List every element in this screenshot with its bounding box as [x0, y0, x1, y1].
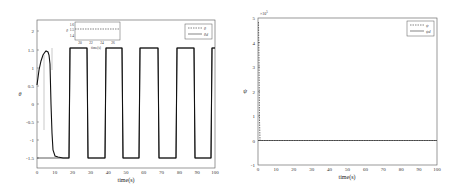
- svg-text:60: 60: [363, 167, 369, 172]
- svg-text:0: 0: [257, 167, 260, 172]
- svg-text:50: 50: [124, 170, 130, 175]
- svg-text:θ: θ: [66, 29, 68, 33]
- svg-text:20: 20: [70, 170, 76, 175]
- svg-text:1.4: 1.4: [70, 34, 75, 38]
- left-chart: 2 1.5 1 0.5 0 -0.5 -1 -1.5 0 10 20 30 40…: [19, 20, 220, 184]
- svg-text:0.5: 0.5: [28, 84, 35, 89]
- svg-text:50: 50: [345, 167, 351, 172]
- svg-text:4: 4: [253, 41, 256, 46]
- svg-text:5: 5: [253, 16, 256, 21]
- svg-text:1.5: 1.5: [28, 48, 35, 53]
- svg-text:0: 0: [36, 170, 39, 175]
- svg-text:20: 20: [78, 41, 82, 45]
- right-y-label: ψ: [243, 88, 247, 94]
- svg-text:2: 2: [32, 29, 35, 34]
- right-chart: 5 4 3 2 1 0 -1 ×105 0 10 20 30 40 50 60 …: [243, 10, 441, 181]
- svg-text:1: 1: [32, 66, 35, 71]
- svg-text:30: 30: [309, 167, 315, 172]
- right-legend: ψ ψd: [407, 21, 434, 36]
- svg-text:-1: -1: [30, 138, 35, 143]
- right-multiplier: ×105: [260, 10, 268, 16]
- left-y-label: θ: [19, 91, 22, 97]
- left-x-tick-labels: 0 10 20 30 40 50 60 70 80 90 100: [36, 170, 220, 175]
- svg-text:1: 1: [253, 114, 256, 119]
- svg-text:90: 90: [195, 170, 201, 175]
- svg-text:2: 2: [253, 90, 256, 95]
- svg-text:90: 90: [417, 167, 423, 172]
- left-legend: θ θd: [185, 24, 212, 39]
- svg-text:θ: θ: [204, 26, 206, 31]
- svg-text:1.6: 1.6: [70, 23, 75, 27]
- svg-text:26: 26: [111, 41, 115, 45]
- svg-text:70: 70: [159, 170, 165, 175]
- svg-text:-1: -1: [251, 163, 256, 168]
- svg-text:0: 0: [32, 102, 35, 107]
- svg-text:-0.5: -0.5: [26, 120, 34, 125]
- svg-text:70: 70: [381, 167, 387, 172]
- svg-text:0: 0: [253, 139, 256, 144]
- right-x-label: time(s): [339, 174, 356, 181]
- svg-text:40: 40: [327, 167, 333, 172]
- svg-text:100: 100: [433, 167, 441, 172]
- svg-text:100: 100: [211, 170, 219, 175]
- right-axes-box: [258, 18, 437, 165]
- left-x-label: time(s): [118, 177, 135, 184]
- svg-text:40: 40: [106, 170, 112, 175]
- svg-text:80: 80: [399, 167, 405, 172]
- svg-text:60: 60: [141, 170, 147, 175]
- svg-text:time(s): time(s): [91, 46, 102, 50]
- right-y-tick-labels: 5 4 3 2 1 0 -1: [251, 16, 256, 168]
- svg-text:-1.5: -1.5: [26, 156, 34, 161]
- svg-text:80: 80: [177, 170, 183, 175]
- svg-text:3: 3: [253, 65, 256, 70]
- left-y-tick-labels: 2 1.5 1 0.5 0 -0.5 -1 -1.5: [26, 29, 34, 161]
- left-axes-box: [37, 20, 215, 168]
- svg-text:10: 10: [52, 170, 58, 175]
- figure: 2 1.5 1 0.5 0 -0.5 -1 -1.5 0 10 20 30 40…: [0, 0, 457, 188]
- svg-text:22: 22: [89, 41, 93, 45]
- right-x-tick-labels: 0 10 20 30 40 50 60 70 80 90 100: [257, 167, 442, 172]
- svg-text:20: 20: [291, 167, 297, 172]
- svg-text:30: 30: [88, 170, 94, 175]
- svg-text:1.5: 1.5: [70, 28, 75, 32]
- svg-text:10: 10: [273, 167, 279, 172]
- svg-text:24: 24: [100, 41, 104, 45]
